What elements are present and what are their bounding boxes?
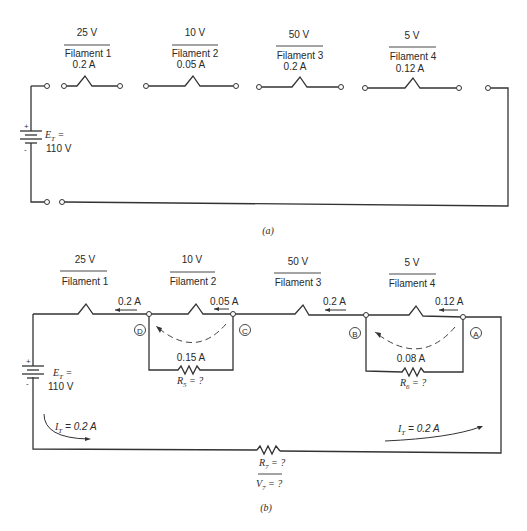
battery-icon xyxy=(22,366,44,378)
filament-2-name: Filament 2 xyxy=(172,48,219,59)
circuit-diagram: + - ET = 110 V 25 V Filament 1 0.2 A 10 … xyxy=(0,0,527,531)
terminal xyxy=(60,200,65,205)
node-B-label: B xyxy=(350,328,361,339)
filament-4: 5 V Filament 4 xyxy=(389,257,436,289)
caption-a: (a) xyxy=(262,225,274,237)
source-label: ET = xyxy=(44,129,64,143)
shunt-R5: 0.15 A R5 = ? xyxy=(147,312,236,390)
filament-2-voltage: 10 V xyxy=(182,254,203,265)
terminal xyxy=(45,200,50,205)
battery-icon xyxy=(20,131,42,143)
filament-1-current: 0.2 A xyxy=(73,59,96,70)
node-C-junction xyxy=(231,312,236,317)
IT-left-label: IT = 0.2 A xyxy=(54,421,97,435)
filament-1-name: Filament 1 xyxy=(65,48,112,59)
source-voltage: 110 V xyxy=(48,381,74,392)
current-label-left-of-D: 0.2 A xyxy=(118,296,141,307)
battery-minus-sign: - xyxy=(26,379,29,388)
IT-right-label: IT = 0.2 A xyxy=(397,423,440,437)
filament-1-name: Filament 1 xyxy=(62,276,109,287)
arrow-right-icon xyxy=(85,437,91,441)
battery-minus-sign: - xyxy=(24,145,27,154)
svg-text:C: C xyxy=(242,327,248,336)
filament-2-voltage: 10 V xyxy=(185,27,206,38)
filament-3: 50 V Filament 3 xyxy=(274,256,322,288)
svg-text:A: A xyxy=(473,330,479,339)
node-A-junction xyxy=(461,315,466,320)
svg-text:B: B xyxy=(352,330,357,339)
part-a-circuit: + - ET = 110 V 25 V Filament 1 0.2 A 10 … xyxy=(20,27,508,237)
filament-3-voltage: 50 V xyxy=(288,256,309,267)
filament-3: 50 V Filament 3 0.2 A xyxy=(257,29,344,90)
filament-3-current: 0.2 A xyxy=(284,61,307,72)
shunt-R6: 0.08 A R6 = ? xyxy=(364,313,466,392)
source-label: ET = xyxy=(52,367,72,381)
filament-1-voltage: 25 V xyxy=(77,27,98,38)
filament-3-voltage: 50 V xyxy=(289,29,310,40)
source-voltage: 110 V xyxy=(46,143,72,154)
terminal xyxy=(486,86,491,91)
svg-text:D: D xyxy=(137,327,143,336)
filament-4-voltage: 5 V xyxy=(404,257,419,268)
V7-label: V7 = ? xyxy=(256,478,282,492)
caption-b: (b) xyxy=(260,502,272,514)
current-label-left-of-B: 0.2 A xyxy=(323,296,346,307)
filament-4-voltage: 5 V xyxy=(404,30,419,41)
arrow-left-icon xyxy=(439,308,458,312)
node-A-label: A xyxy=(471,328,482,339)
part-b-circuit: + - ET = 110 V 25 V Filament 1 10 V Fila… xyxy=(22,254,501,514)
filament-4-current: 0.12 A xyxy=(396,63,425,74)
node-C-label: C xyxy=(240,325,251,336)
node-B-junction xyxy=(364,313,369,318)
filament-4-name: Filament 4 xyxy=(390,51,437,62)
filament-1: 25 V Filament 1 0.2 A xyxy=(62,27,123,89)
arrow-left-icon xyxy=(214,307,229,311)
filament-2-name: Filament 2 xyxy=(170,276,217,287)
node-D-label: D xyxy=(135,325,146,336)
total-current-left: IT = 0.2 A xyxy=(44,414,97,441)
filament-4-name: Filament 4 xyxy=(389,278,436,289)
filament-1: 25 V Filament 1 xyxy=(60,254,109,287)
terminal xyxy=(45,84,50,89)
arrow-head-icon xyxy=(375,332,381,338)
filament-4: 5 V Filament 4 0.12 A xyxy=(363,30,462,91)
arrow-left-icon xyxy=(325,308,346,312)
battery-plus-sign: + xyxy=(24,122,29,131)
filament-1-voltage: 25 V xyxy=(75,254,96,265)
filament-2-current: 0.05 A xyxy=(177,59,206,70)
arrow-head-icon xyxy=(156,326,162,333)
R7-label: R7 = ? xyxy=(258,457,285,471)
series-R7: R7 = ? V7 = ? xyxy=(256,446,285,492)
R5-current: 0.15 A xyxy=(177,352,206,363)
filament-3-name: Filament 3 xyxy=(275,277,322,288)
filament-3-name: Filament 3 xyxy=(277,50,324,61)
total-current-right: IT = 0.2 A xyxy=(385,423,483,441)
battery-plus-sign: + xyxy=(26,357,31,366)
current-label-filament-4: 0.12 A xyxy=(435,296,464,307)
arrow-left-icon xyxy=(115,308,137,312)
R5-label: R5 = ? xyxy=(176,375,203,389)
R6-current: 0.08 A xyxy=(397,353,426,364)
node-D-junction xyxy=(147,312,152,317)
filament-2: 10 V Filament 2 xyxy=(170,254,217,287)
filament-2: 10 V Filament 2 0.05 A xyxy=(144,27,239,89)
R6-label: R6 = ? xyxy=(399,377,426,391)
current-label-filament-2: 0.05 A xyxy=(210,296,239,307)
